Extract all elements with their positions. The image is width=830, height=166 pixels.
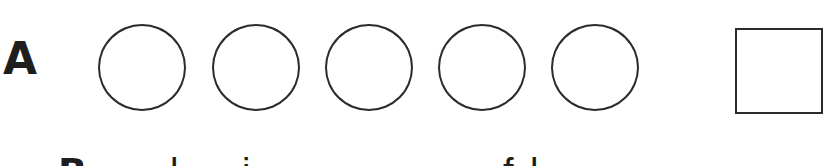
row-b-prefix: -: [10, 160, 17, 166]
row-b-fragment-1: l: [170, 153, 178, 166]
row-label-b: B: [58, 153, 87, 166]
circle-4: [438, 24, 526, 111]
circle-1: [98, 24, 186, 111]
row-b-fragment-3: f: [503, 153, 514, 166]
row-b-fragment-2: i: [242, 153, 250, 166]
row-label-a: A: [3, 37, 37, 81]
answer-box[interactable]: [735, 28, 823, 114]
circle-2: [212, 24, 300, 111]
circle-3: [325, 24, 413, 111]
row-b-fragment-4: l: [530, 153, 538, 166]
row-b-partial: - B l i f l: [0, 150, 830, 166]
circle-5: [551, 24, 639, 111]
